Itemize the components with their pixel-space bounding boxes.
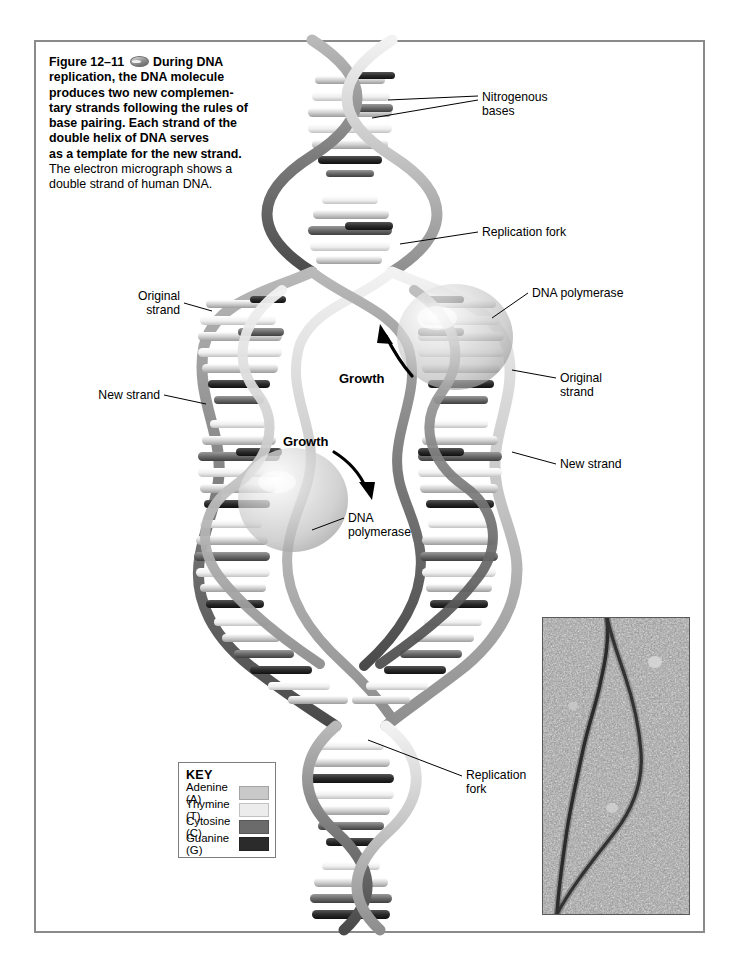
figure-page: Figure 12–11During DNA replication, the … xyxy=(0,0,739,968)
caption-bold-line-4: base pairing. Each strand of the xyxy=(49,116,304,131)
label-replication-fork-top: Replication fork xyxy=(482,225,566,239)
label-original-strand-right: Original strand xyxy=(560,371,602,400)
key-item-guanine: Guanine (G) xyxy=(186,836,269,852)
caption-bold-line-3: tary strands following the rules of xyxy=(49,101,304,116)
figure-number: Figure 12–11 xyxy=(49,55,124,69)
figure-caption: Figure 12–11During DNA replication, the … xyxy=(49,55,304,193)
caption-bold-line-2: produces two new complemen- xyxy=(49,86,304,101)
label-original-strand-left: Original strand xyxy=(64,289,180,318)
key-swatch-adenine xyxy=(239,786,269,800)
caption-bold-line-6: as a template for the new strand. xyxy=(49,147,304,162)
key-swatch-thymine xyxy=(239,803,269,817)
label-dna-polymerase-left: DNA polymerase xyxy=(348,511,411,540)
label-replication-fork-bottom: Replication fork xyxy=(466,768,526,797)
label-growth-lower: Growth xyxy=(283,434,329,449)
key-legend: KEY Adenine (A) Thymine (T) Cytosine (C)… xyxy=(178,762,276,858)
key-swatch-guanine xyxy=(239,837,269,851)
label-nitrogenous-bases: Nitrogenous bases xyxy=(482,90,548,119)
key-title: KEY xyxy=(186,768,269,782)
caption-bold-line-1: replication, the DNA molecule xyxy=(49,70,304,85)
caption-plain-line-1: double strand of human DNA. xyxy=(49,177,304,192)
label-growth-upper: Growth xyxy=(339,371,385,386)
oval-photo-icon xyxy=(130,56,149,67)
caption-bold-line-0: During DNA xyxy=(153,55,223,69)
key-label-guanine: Guanine (G) xyxy=(186,832,239,856)
label-dna-polymerase-right: DNA polymerase xyxy=(532,286,623,300)
caption-plain-line-0: The electron micrograph shows a xyxy=(49,162,304,177)
key-swatch-cytosine xyxy=(239,820,269,834)
caption-bold-line-5: double helix of DNA serves xyxy=(49,131,304,146)
electron-micrograph xyxy=(542,617,690,915)
label-new-strand-right: New strand xyxy=(560,457,622,471)
label-new-strand-left: New strand xyxy=(54,388,160,402)
